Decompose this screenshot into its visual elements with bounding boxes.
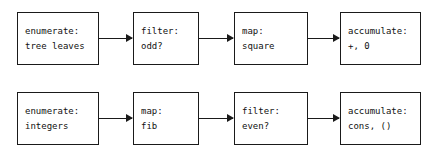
stage-accumulate-cons: accumulate: cons, () xyxy=(340,92,421,145)
signal-flow-diagram: enumerate: tree leaves filter: odd? map:… xyxy=(0,0,437,154)
stage-accumulate-plus: accumulate: +, 0 xyxy=(340,12,421,65)
arrow-right-icon xyxy=(308,117,339,119)
stage-line-secondary: square xyxy=(242,39,275,54)
stage-line-secondary: even? xyxy=(242,119,269,134)
arrow-head xyxy=(227,114,234,122)
stage-line-primary: map: xyxy=(242,24,264,39)
stage-map-fib: map: fib xyxy=(133,92,199,145)
stage-line-primary: accumulate: xyxy=(348,24,408,39)
stage-line-primary: enumerate: xyxy=(25,24,79,39)
stage-line-secondary: +, 0 xyxy=(348,39,370,54)
stage-enumerate-integers: enumerate: integers xyxy=(17,92,99,145)
stage-line-primary: filter: xyxy=(141,24,179,39)
arrow-right-icon xyxy=(308,37,339,39)
stage-line-primary: filter: xyxy=(242,104,280,119)
stage-map-square: map: square xyxy=(234,12,308,65)
stage-line-primary: enumerate: xyxy=(25,104,79,119)
pipeline-row-top: enumerate: tree leaves filter: odd? map:… xyxy=(0,12,437,66)
stage-line-primary: accumulate: xyxy=(348,104,408,119)
stage-line-primary: map: xyxy=(141,104,163,119)
arrow-right-icon xyxy=(199,117,233,119)
arrow-head xyxy=(333,34,340,42)
stage-filter-even: filter: even? xyxy=(234,92,308,145)
stage-line-secondary: tree leaves xyxy=(25,39,85,54)
stage-line-secondary: integers xyxy=(25,119,68,134)
arrow-head xyxy=(126,114,133,122)
stage-enumerate-tree-leaves: enumerate: tree leaves xyxy=(17,12,99,65)
arrow-head xyxy=(227,34,234,42)
arrow-right-icon xyxy=(99,117,132,119)
stage-line-secondary: fib xyxy=(141,119,157,134)
stage-line-secondary: cons, () xyxy=(348,119,391,134)
pipeline-row-bottom: enumerate: integers map: fib filter: eve… xyxy=(0,92,437,146)
stage-filter-odd: filter: odd? xyxy=(133,12,199,65)
arrow-head xyxy=(333,114,340,122)
arrow-right-icon xyxy=(99,37,132,39)
arrow-right-icon xyxy=(199,37,233,39)
stage-line-secondary: odd? xyxy=(141,39,163,54)
arrow-head xyxy=(126,34,133,42)
